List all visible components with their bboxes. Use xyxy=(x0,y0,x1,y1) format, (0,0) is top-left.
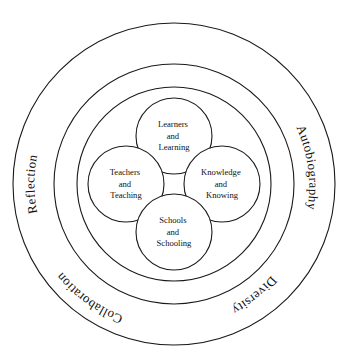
node-schools-line-1: Schools xyxy=(159,215,187,225)
node-learners-line-3: Learning xyxy=(158,142,190,152)
node-knowledge-line-3: Knowing xyxy=(206,190,239,200)
node-learners-line-2: and xyxy=(167,131,180,141)
ring-label-reflection-text: Reflection xyxy=(22,153,40,215)
node-schools[interactable]: Schools and Schooling xyxy=(136,194,212,270)
ring-label-collaboration-text: Collaboration xyxy=(52,270,124,327)
concentric-rings-diagram: Reflection Autobiography Diversity Colla… xyxy=(0,0,351,362)
outer-ring xyxy=(13,23,335,345)
node-teachers-line-2: and xyxy=(119,179,132,189)
node-teachers-line-3: Teaching xyxy=(110,190,142,200)
diagram-container: Reflection Autobiography Diversity Colla… xyxy=(0,0,351,362)
node-knowledge-line-2: and xyxy=(215,179,228,189)
node-learners-line-1: Learners xyxy=(158,119,189,129)
ring-label-collaboration: Collaboration xyxy=(52,270,124,327)
ring-label-autobiography-text: Autobiography xyxy=(293,123,321,211)
node-knowledge-line-1: Knowledge xyxy=(201,167,241,177)
node-teachers-line-1: Teachers xyxy=(110,167,141,177)
node-schools-line-3: Schooling xyxy=(157,238,193,248)
ring-label-autobiography: Autobiography xyxy=(293,123,321,211)
node-schools-line-2: and xyxy=(167,227,180,237)
ring-label-reflection: Reflection xyxy=(22,153,40,215)
